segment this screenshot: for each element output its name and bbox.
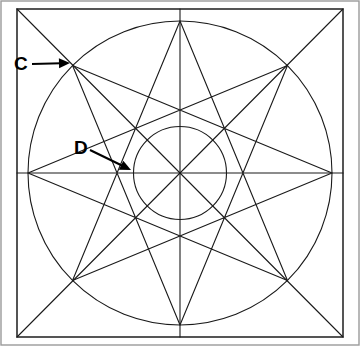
label-d: D	[74, 137, 88, 158]
arrow-line-d	[90, 150, 123, 166]
annotation-c: C	[14, 53, 70, 74]
figure-canvas: C D	[0, 0, 360, 346]
label-c: C	[14, 53, 28, 74]
arrow-line-c	[32, 63, 61, 64]
geometry-figure: C D	[0, 0, 360, 346]
arrow-head-c	[59, 58, 70, 68]
